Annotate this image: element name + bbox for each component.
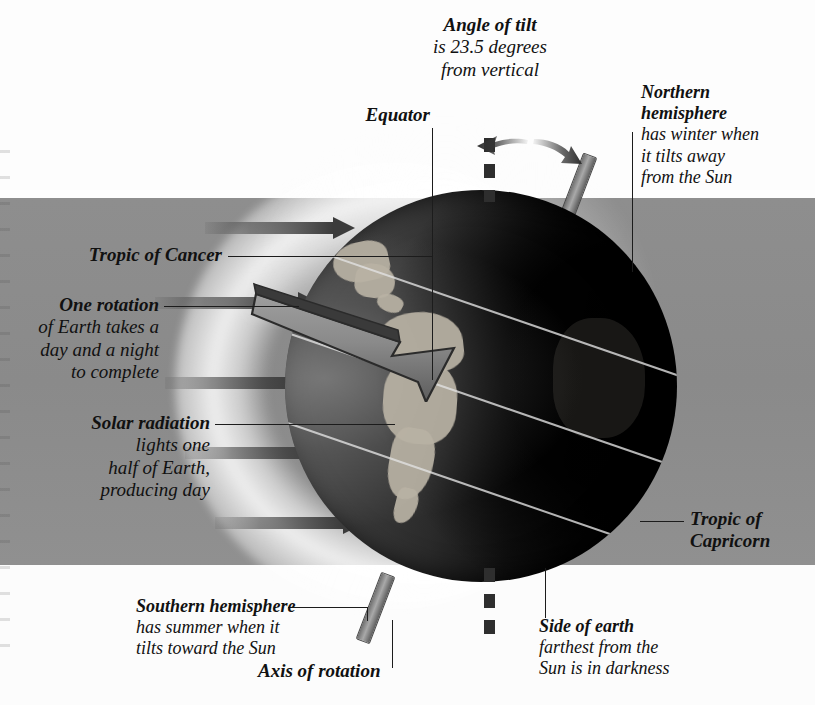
label-one-rotation-head: One rotation bbox=[14, 294, 159, 316]
label-equator-head: Equator bbox=[300, 104, 430, 126]
label-axis-of-rotation: Axis of rotation bbox=[258, 660, 488, 682]
label-southern-hemisphere-line2: has summer when it bbox=[136, 617, 386, 638]
label-southern-hemisphere-line3: tilts toward the Sun bbox=[136, 638, 386, 659]
leader-side-of-earth bbox=[545, 568, 546, 618]
label-tropic-of-capricorn-head: Tropic of bbox=[690, 508, 810, 530]
label-solar-radiation-line2: lights one bbox=[44, 434, 210, 456]
leader-northern-hemisphere bbox=[632, 132, 633, 272]
label-side-of-earth-line3: Sun is in darkness bbox=[539, 658, 739, 679]
label-solar-radiation: Solar radiation lights one half of Earth… bbox=[44, 412, 210, 502]
label-southern-hemisphere: Southern hemisphere has summer when it t… bbox=[136, 596, 386, 660]
rotation-arrow bbox=[250, 282, 550, 402]
label-northern-hemisphere-line3: has winter when bbox=[641, 124, 813, 145]
label-tropic-of-capricorn-head2: Capricorn bbox=[690, 530, 810, 552]
label-angle-of-tilt-line2: is 23.5 degrees bbox=[405, 36, 575, 58]
leader-equator bbox=[432, 128, 433, 380]
label-equator: Equator bbox=[300, 104, 430, 126]
label-northern-hemisphere-head: Northern bbox=[641, 82, 813, 103]
label-northern-hemisphere-line5: from the Sun bbox=[641, 167, 813, 188]
diagram-canvas: Angle of tilt is 23.5 degrees from verti… bbox=[0, 0, 815, 705]
label-side-of-earth: Side of earth farthest from the Sun is i… bbox=[539, 616, 739, 680]
label-angle-of-tilt-line3: from vertical bbox=[405, 59, 575, 81]
page-edge-artifacts bbox=[0, 150, 10, 670]
label-northern-hemisphere-head2: hemisphere bbox=[641, 103, 813, 124]
label-northern-hemisphere-line4: it tilts away bbox=[641, 146, 813, 167]
label-side-of-earth-head: Side of earth bbox=[539, 616, 739, 637]
tilt-angle-double-arrow bbox=[465, 128, 595, 188]
label-solar-radiation-line4: producing day bbox=[44, 479, 210, 501]
label-tropic-of-cancer-head: Tropic of Cancer bbox=[40, 244, 222, 266]
label-tropic-of-cancer: Tropic of Cancer bbox=[40, 244, 222, 266]
leader-tropic-of-capricorn bbox=[640, 521, 684, 522]
label-one-rotation-line4: to complete bbox=[14, 361, 159, 383]
leader-solar-radiation bbox=[215, 424, 395, 425]
label-tropic-of-capricorn: Tropic of Capricorn bbox=[690, 508, 810, 553]
leader-tropic-of-cancer bbox=[228, 256, 433, 257]
label-angle-of-tilt-head: Angle of tilt bbox=[405, 14, 575, 36]
label-one-rotation-line3: day and a night bbox=[14, 339, 159, 361]
label-one-rotation-line2: of Earth takes a bbox=[14, 316, 159, 338]
label-side-of-earth-line2: farthest from the bbox=[539, 637, 739, 658]
label-solar-radiation-line3: half of Earth, bbox=[44, 457, 210, 479]
label-one-rotation: One rotation of Earth takes a day and a … bbox=[14, 294, 159, 384]
vertical-reference-dashed-bottom bbox=[484, 568, 495, 636]
label-axis-of-rotation-head: Axis of rotation bbox=[258, 660, 488, 682]
label-northern-hemisphere: Northern hemisphere has winter when it t… bbox=[641, 82, 813, 188]
label-solar-radiation-head: Solar radiation bbox=[44, 412, 210, 434]
leader-one-rotation bbox=[164, 306, 299, 307]
label-angle-of-tilt: Angle of tilt is 23.5 degrees from verti… bbox=[405, 14, 575, 81]
label-southern-hemisphere-head: Southern hemisphere bbox=[136, 596, 386, 617]
